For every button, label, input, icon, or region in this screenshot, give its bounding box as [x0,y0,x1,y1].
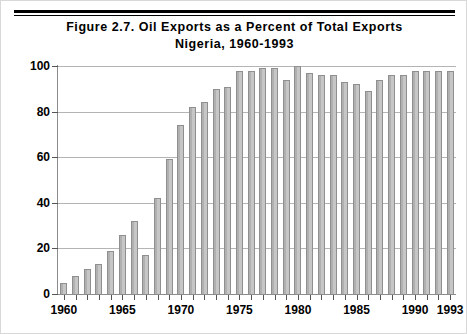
bar-1989 [400,75,407,294]
x-tick-1975 [239,295,240,300]
x-tick-1986 [368,295,369,300]
plot-area [58,66,456,294]
bar-1973 [213,89,220,294]
bar-1962 [84,269,91,294]
x-tick-1990 [415,295,416,300]
x-tick-label-1993: 1993 [437,303,464,317]
bar-1966 [131,221,138,294]
x-tick-1968 [158,295,159,300]
bar-1981 [306,73,313,294]
x-tick-label-1970: 1970 [168,303,195,317]
y-tick-label-40: 40 [16,196,50,210]
x-tick-label-1960: 1960 [50,303,77,317]
x-tick-1961 [76,295,77,300]
bar-1969 [166,159,173,294]
x-axis-labels: 19601965197019751980198519901993 [1,303,467,323]
x-tick-1992 [438,295,439,300]
y-axis-labels: 020406080100 [14,66,50,294]
y-tick-label-60: 60 [16,150,50,164]
x-tick-1967 [146,295,147,300]
x-tick-1988 [392,295,393,300]
x-tick-1981 [310,295,311,300]
y-tick-mark-40 [52,203,58,204]
chart-title-line-2: Nigeria, 1960-1993 [1,36,467,53]
bar-1980 [294,66,301,294]
title-rule-thin [14,15,455,16]
bar-1961 [72,276,79,294]
bar-1982 [318,75,325,294]
bar-1987 [376,80,383,294]
x-tick-1985 [357,295,358,300]
x-tick-1966 [134,295,135,300]
x-tick-1965 [122,295,123,300]
y-tick-mark-80 [52,112,58,113]
x-tick-1978 [275,295,276,300]
y-tick-label-20: 20 [16,241,50,255]
bar-1975 [236,71,243,294]
x-tick-label-1965: 1965 [109,303,136,317]
chart-title: Figure 2.7. Oil Exports as a Percent of … [1,19,467,53]
x-tick-1972 [204,295,205,300]
y-tick-mark-20 [52,248,58,249]
x-tick-1983 [333,295,334,300]
x-tick-1970 [181,295,182,300]
chart-title-line-1: Figure 2.7. Oil Exports as a Percent of … [1,19,467,36]
y-tick-mark-60 [52,157,58,158]
y-tick-label-100: 100 [16,59,50,73]
x-tick-label-1975: 1975 [226,303,253,317]
x-tick-1969 [169,295,170,300]
gridline-y-40 [58,203,456,204]
bar-1983 [330,75,337,294]
x-tick-1982 [321,295,322,300]
x-tick-1960 [64,295,65,300]
x-tick-1974 [228,295,229,300]
title-rule-thick [14,10,455,13]
figure-container: Figure 2.7. Oil Exports as a Percent of … [0,0,467,334]
x-axis-ticks [58,295,456,301]
x-tick-1987 [380,295,381,300]
gridline-y-60 [58,157,456,158]
bar-1960 [60,283,67,294]
x-tick-1977 [263,295,264,300]
bar-1968 [154,198,161,294]
bar-1986 [365,91,372,294]
x-tick-1962 [87,295,88,300]
bar-1974 [224,87,231,294]
x-tick-1980 [298,295,299,300]
bar-1977 [259,68,266,294]
bar-1967 [142,255,149,294]
y-tick-label-0: 0 [16,287,50,301]
x-tick-1984 [345,295,346,300]
gridline-y-100 [58,66,456,67]
x-tick-1991 [427,295,428,300]
x-tick-1989 [403,295,404,300]
bar-1970 [177,125,184,294]
x-tick-1973 [216,295,217,300]
bar-1984 [341,82,348,294]
x-tick-1979 [286,295,287,300]
x-tick-1964 [111,295,112,300]
bar-1972 [201,102,208,294]
bar-1978 [271,68,278,294]
x-tick-1971 [193,295,194,300]
bar-1971 [189,107,196,294]
y-tick-label-80: 80 [16,105,50,119]
gridline-y-80 [58,112,456,113]
gridline-y-20 [58,248,456,249]
bar-1979 [283,80,290,294]
bar-1990 [412,71,419,294]
bar-1963 [95,264,102,294]
x-tick-label-1980: 1980 [285,303,312,317]
bar-1964 [107,251,114,294]
x-tick-label-1985: 1985 [343,303,370,317]
x-tick-1963 [99,295,100,300]
y-tick-mark-100 [52,66,58,67]
bar-1965 [119,235,126,294]
bar-1985 [353,84,360,294]
bar-1976 [248,71,255,294]
bar-1993 [447,71,454,294]
bar-1988 [388,75,395,294]
x-tick-1976 [251,295,252,300]
bar-1992 [435,71,442,294]
x-tick-label-1990: 1990 [402,303,429,317]
